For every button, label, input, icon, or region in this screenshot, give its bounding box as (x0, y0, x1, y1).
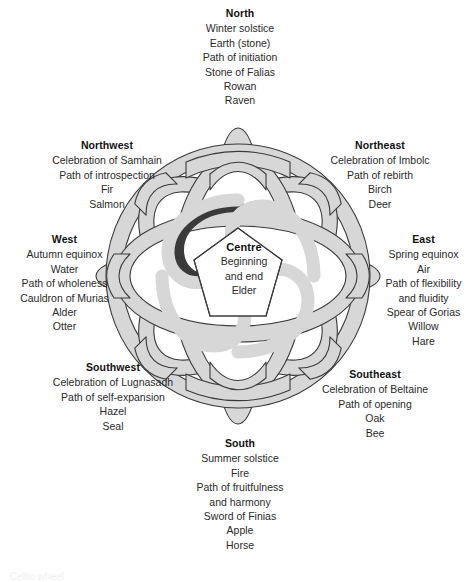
west-line: Alder (2, 305, 127, 319)
northeast-heading: Northeast (290, 138, 470, 152)
north-line: Earth (stone) (145, 36, 335, 50)
centre-heading: Centre (196, 240, 292, 254)
southeast-line: Oak (285, 411, 465, 425)
east-heading: East (372, 232, 475, 246)
east-line: Spring equinox (372, 247, 475, 261)
north-line: Rowan (145, 79, 335, 93)
west-line: Autumn equinox (2, 247, 127, 261)
south-line: Apple (145, 523, 335, 537)
label-north: North Winter solstice Earth (stone) Path… (145, 6, 335, 108)
northwest-line: Fir (12, 182, 202, 196)
north-line: Raven (145, 93, 335, 107)
west-line: Cauldron of Murias (2, 291, 127, 305)
south-line: and harmony (145, 495, 335, 509)
northwest-line: Path of introspection (12, 168, 202, 182)
label-centre: Centre Beginning and end Elder (196, 240, 292, 298)
northeast-line: Deer (290, 197, 470, 211)
south-line: Summer solstice (145, 451, 335, 465)
south-line: Sword of Finias (145, 509, 335, 523)
west-heading: West (2, 232, 127, 246)
southeast-line: Path of opening (285, 397, 465, 411)
label-northwest: Northwest Celebration of Samhain Path of… (12, 138, 202, 211)
east-line: Path of flexibility (372, 276, 475, 290)
centre-line: and end (196, 269, 292, 283)
north-line: Winter solstice (145, 21, 335, 35)
northeast-line: Path of rebirth (290, 168, 470, 182)
label-southwest: Southwest Celebration of Lugnasadh Path … (18, 360, 208, 433)
northwest-line: Celebration of Samhain (12, 153, 202, 167)
west-line: Water (2, 262, 127, 276)
west-line: Otter (2, 319, 127, 333)
east-line: Willow (372, 319, 475, 333)
label-east: East Spring equinox Air Path of flexibil… (372, 232, 475, 348)
northeast-line: Celebration of Imbolc (290, 153, 470, 167)
bottom-caption: Celtic wheel (10, 571, 64, 582)
centre-line: Elder (196, 283, 292, 297)
east-line: Air (372, 262, 475, 276)
east-line: and fluidity (372, 291, 475, 305)
southeast-line: Celebration of Beltaine (285, 382, 465, 396)
east-line: Hare (372, 334, 475, 348)
northwest-heading: Northwest (12, 138, 202, 152)
northwest-line: Salmon (12, 197, 202, 211)
southwest-line: Hazel (18, 404, 208, 418)
north-heading: North (145, 6, 335, 20)
label-southeast: Southeast Celebration of Beltaine Path o… (285, 367, 465, 440)
label-northeast: Northeast Celebration of Imbolc Path of … (290, 138, 470, 211)
southeast-heading: Southeast (285, 367, 465, 381)
south-line: Path of fruitfulness (145, 480, 335, 494)
centre-line: Beginning (196, 254, 292, 268)
south-heading: South (145, 436, 335, 450)
north-line: Path of initiation (145, 50, 335, 64)
north-line: Stone of Falias (145, 65, 335, 79)
northeast-line: Birch (290, 182, 470, 196)
southwest-line: Seal (18, 419, 208, 433)
southwest-line: Celebration of Lugnasadh (18, 375, 208, 389)
label-west: West Autumn equinox Water Path of wholen… (2, 232, 127, 334)
southwest-line: Path of self-expansion (18, 390, 208, 404)
south-line: Fire (145, 466, 335, 480)
south-line: Horse (145, 538, 335, 552)
east-line: Spear of Gorias (372, 305, 475, 319)
west-line: Path of wholeness (2, 276, 127, 290)
southwest-heading: Southwest (18, 360, 208, 374)
label-south: South Summer solstice Fire Path of fruit… (145, 436, 335, 552)
